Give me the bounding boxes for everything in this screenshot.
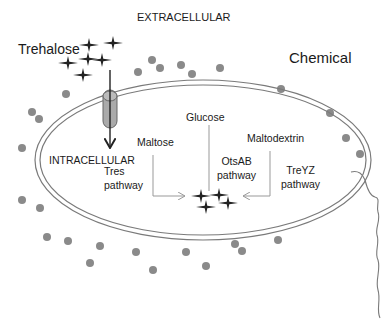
transporter-channel <box>103 70 117 148</box>
otsab-pathway-label: OtsAB pathway <box>217 155 256 182</box>
treyz-pathway-label: TreYZ pathway <box>281 164 320 191</box>
maltose-label: Maltose <box>137 137 174 149</box>
extracellular-label: EXTRACELLULAR <box>137 11 231 23</box>
maltodextrin-label: Maltodextrin <box>247 133 304 145</box>
treyz-line1: TreYZ <box>281 164 320 178</box>
trehalose-label: Trehalose <box>18 42 80 57</box>
glucose-label: Glucose <box>186 112 225 124</box>
tres-pathway-label: Tres pathway <box>104 165 143 192</box>
otsab-line1: OtsAB <box>217 155 256 169</box>
treyz-line2: pathway <box>281 178 320 192</box>
chemical-label: Chemical <box>289 50 352 67</box>
trehalose-pathway-diagram: EXTRACELLULAR Trehalose Chemical Glucose… <box>0 0 388 331</box>
trehalose-stars-intracellular <box>191 188 238 214</box>
otsab-line2: pathway <box>217 169 256 183</box>
tres-line1: Tres <box>104 165 143 179</box>
tres-line2: pathway <box>104 179 143 193</box>
